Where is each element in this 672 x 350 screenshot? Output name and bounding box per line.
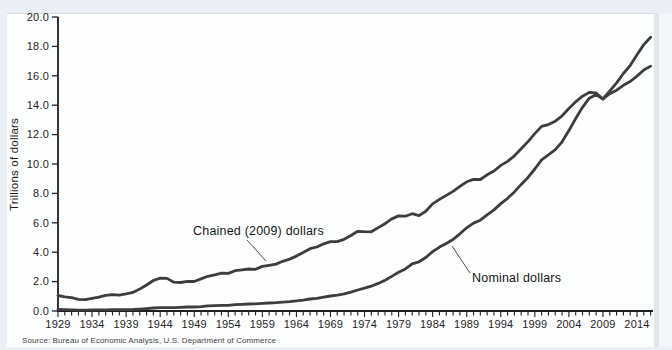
gdp-line-chart: 0.02.04.06.08.010.012.014.016.018.020.01… [0, 0, 672, 350]
x-tick-label: 1949 [182, 318, 207, 330]
y-tick-label: 20.0 [27, 11, 49, 23]
x-tick-label: 1984 [420, 318, 445, 330]
x-tick-label: 2004 [556, 318, 581, 330]
x-tick-label: 2009 [590, 318, 615, 330]
x-tick-label: 1944 [148, 318, 173, 330]
x-tick-label: 1964 [284, 318, 309, 330]
x-tick-label: 1989 [454, 318, 479, 330]
annotation-chained-dollars: Chained (2009) dollars [193, 224, 324, 238]
y-axis-title: Trillions of dollars [8, 85, 23, 245]
series-line-chained-2009-dollars [58, 66, 651, 300]
annotation-nominal-dollars: Nominal dollars [472, 271, 561, 285]
x-tick-label: 1974 [352, 318, 377, 330]
x-tick-label: 1934 [79, 318, 104, 330]
y-tick-label: 12.0 [27, 128, 49, 140]
series-line-nominal-dollars [58, 37, 651, 310]
x-tick-label: 1969 [318, 318, 343, 330]
x-tick-label: 2014 [624, 318, 649, 330]
x-tick-label: 1959 [250, 318, 275, 330]
y-tick-label: 2.0 [33, 275, 49, 287]
y-tick-label: 18.0 [27, 40, 49, 52]
x-tick-label: 1999 [522, 318, 547, 330]
annotation-leader-line [247, 240, 266, 261]
y-tick-label: 16.0 [27, 70, 49, 82]
y-tick-label: 10.0 [27, 158, 49, 170]
y-tick-label: 4.0 [33, 246, 49, 258]
y-tick-label: 0.0 [33, 305, 49, 317]
y-tick-label: 6.0 [33, 217, 49, 229]
gdp-chart-page: 0.02.04.06.08.010.012.014.016.018.020.01… [0, 0, 672, 350]
x-tick-label: 1994 [488, 318, 513, 330]
annotation-leader-line [452, 246, 470, 273]
axes [58, 17, 653, 311]
source-note: Source: Bureau of Economic Analysis, U.S… [22, 336, 276, 345]
x-tick-label: 1929 [45, 318, 70, 330]
x-tick-label: 1939 [113, 318, 138, 330]
y-tick-label: 8.0 [33, 187, 49, 199]
x-tick-label: 1954 [216, 318, 241, 330]
y-tick-label: 14.0 [27, 99, 49, 111]
x-tick-label: 1979 [386, 318, 411, 330]
